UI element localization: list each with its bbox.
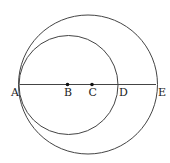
point-e-label: E (158, 86, 166, 99)
point-labels: ABCDE (10, 86, 166, 99)
point-b-label: B (64, 86, 72, 99)
geometry-diagram: ABCDE (0, 0, 170, 163)
point-c-label: C (89, 86, 97, 99)
point-a-label: A (10, 86, 20, 99)
point-d-label: D (119, 86, 128, 99)
